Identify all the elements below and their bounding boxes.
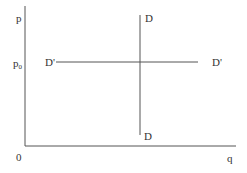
demand-prime-left-label: D': [45, 56, 55, 68]
y-axis-label: p: [16, 12, 22, 24]
x-axis-label: q: [227, 152, 233, 164]
demand-diagram: p p0 0 q D D D' D': [0, 0, 247, 173]
p0-label: p0: [13, 57, 23, 71]
origin-label: 0: [16, 151, 22, 163]
demand-prime-right-label: D': [212, 56, 222, 68]
demand-top-label: D: [145, 12, 153, 24]
demand-bottom-label: D: [144, 130, 152, 142]
